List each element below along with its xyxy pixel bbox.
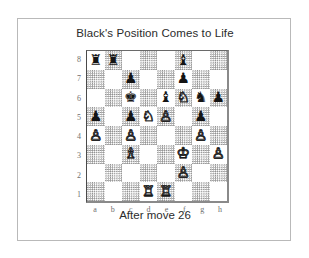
piece-white-pawn-f2[interactable]: ♙ [177, 165, 190, 180]
figure-frame: Black's Position Comes to Life 87654321 … [17, 18, 291, 241]
square-c8[interactable] [122, 51, 140, 70]
rank-label-column: 87654321 [69, 50, 85, 204]
square-e4[interactable] [157, 126, 175, 145]
piece-white-knight-d5[interactable]: ♘ [142, 109, 155, 124]
square-d4[interactable] [140, 126, 158, 145]
square-h1[interactable] [210, 182, 228, 201]
square-a1[interactable] [87, 182, 105, 201]
square-g3[interactable] [192, 145, 210, 164]
square-c2[interactable] [122, 164, 140, 183]
square-a6[interactable] [87, 89, 105, 108]
piece-black-pawn-g5[interactable]: ♟ [194, 109, 207, 124]
square-b8[interactable]: ♜ [105, 51, 123, 70]
rank-label-7: 7 [69, 69, 85, 88]
square-c4[interactable]: ♙ [122, 126, 140, 145]
piece-white-pawn-c4[interactable]: ♙ [124, 128, 137, 143]
piece-white-knight-f6[interactable]: ♘ [177, 90, 190, 105]
piece-white-rook-e1[interactable]: ♖ [159, 184, 172, 199]
square-b5[interactable] [105, 107, 123, 126]
square-e1[interactable]: ♖ [157, 182, 175, 201]
square-d2[interactable] [140, 164, 158, 183]
page-title: Black's Position Comes to Life [18, 27, 292, 39]
piece-black-knight-g6[interactable]: ♞ [194, 90, 207, 105]
square-b1[interactable] [105, 182, 123, 201]
square-h4[interactable] [210, 126, 228, 145]
square-c6[interactable]: ♚ [122, 89, 140, 108]
square-g2[interactable] [192, 164, 210, 183]
piece-black-pawn-h6[interactable]: ♟ [212, 90, 225, 105]
square-a7[interactable] [87, 70, 105, 89]
square-f7[interactable]: ♟ [175, 70, 193, 89]
square-e8[interactable] [157, 51, 175, 70]
square-h8[interactable] [210, 51, 228, 70]
square-f5[interactable] [175, 107, 193, 126]
piece-black-pawn-f7[interactable]: ♟ [177, 71, 190, 86]
square-g1[interactable] [192, 182, 210, 201]
rank-label-6: 6 [69, 89, 85, 108]
rank-label-5: 5 [69, 108, 85, 127]
square-h7[interactable] [210, 70, 228, 89]
chessboard[interactable]: ♜♜♝♟♟♚♝♘♞♟♟♟♘♙♟♙♙♙♗♔♙♙♖♖ [86, 50, 229, 203]
square-h2[interactable] [210, 164, 228, 183]
square-a4[interactable]: ♙ [87, 126, 105, 145]
square-f3[interactable]: ♔ [175, 145, 193, 164]
square-a2[interactable] [87, 164, 105, 183]
square-f2[interactable]: ♙ [175, 164, 193, 183]
piece-white-rook-d1[interactable]: ♖ [142, 184, 155, 199]
square-c5[interactable]: ♟ [122, 107, 140, 126]
figure-caption: After move 26 [18, 209, 292, 221]
square-e2[interactable] [157, 164, 175, 183]
rank-label-8: 8 [69, 50, 85, 69]
square-b7[interactable] [105, 70, 123, 89]
rank-label-2: 2 [69, 166, 85, 185]
square-a3[interactable] [87, 145, 105, 164]
square-d7[interactable] [140, 70, 158, 89]
piece-black-king-c6[interactable]: ♚ [124, 90, 137, 105]
piece-black-rook-a8[interactable]: ♜ [89, 53, 102, 68]
piece-white-pawn-e5[interactable]: ♙ [159, 109, 172, 124]
piece-black-pawn-a5[interactable]: ♟ [89, 109, 102, 124]
square-b6[interactable] [105, 89, 123, 108]
piece-black-pawn-c5[interactable]: ♟ [124, 109, 137, 124]
piece-black-bishop-e6[interactable]: ♝ [159, 90, 172, 105]
rank-label-4: 4 [69, 127, 85, 146]
square-g4[interactable]: ♙ [192, 126, 210, 145]
square-c3[interactable]: ♗ [122, 145, 140, 164]
square-d3[interactable] [140, 145, 158, 164]
square-g5[interactable]: ♟ [192, 107, 210, 126]
square-g7[interactable] [192, 70, 210, 89]
square-a8[interactable]: ♜ [87, 51, 105, 70]
piece-white-bishop-c3[interactable]: ♗ [124, 146, 137, 161]
square-d8[interactable] [140, 51, 158, 70]
square-c1[interactable] [122, 182, 140, 201]
square-g6[interactable]: ♞ [192, 89, 210, 108]
square-f6[interactable]: ♘ [175, 89, 193, 108]
square-a5[interactable]: ♟ [87, 107, 105, 126]
piece-white-pawn-h3[interactable]: ♙ [212, 146, 225, 161]
piece-white-pawn-g4[interactable]: ♙ [194, 128, 207, 143]
square-e7[interactable] [157, 70, 175, 89]
square-e6[interactable]: ♝ [157, 89, 175, 108]
square-h3[interactable]: ♙ [210, 145, 228, 164]
piece-white-king-f3[interactable]: ♔ [177, 146, 190, 161]
piece-white-pawn-a4[interactable]: ♙ [89, 128, 102, 143]
square-e3[interactable] [157, 145, 175, 164]
piece-black-bishop-f8[interactable]: ♝ [177, 53, 190, 68]
piece-black-rook-b8[interactable]: ♜ [107, 53, 120, 68]
square-f1[interactable] [175, 182, 193, 201]
square-b2[interactable] [105, 164, 123, 183]
square-f4[interactable] [175, 126, 193, 145]
square-d5[interactable]: ♘ [140, 107, 158, 126]
square-d1[interactable]: ♖ [140, 182, 158, 201]
square-b4[interactable] [105, 126, 123, 145]
square-e5[interactable]: ♙ [157, 107, 175, 126]
piece-black-pawn-c7[interactable]: ♟ [124, 71, 137, 86]
rank-label-1: 1 [69, 185, 85, 204]
square-b3[interactable] [105, 145, 123, 164]
square-h5[interactable] [210, 107, 228, 126]
square-g8[interactable] [192, 51, 210, 70]
square-h6[interactable]: ♟ [210, 89, 228, 108]
square-c7[interactable]: ♟ [122, 70, 140, 89]
square-d6[interactable] [140, 89, 158, 108]
square-f8[interactable]: ♝ [175, 51, 193, 70]
